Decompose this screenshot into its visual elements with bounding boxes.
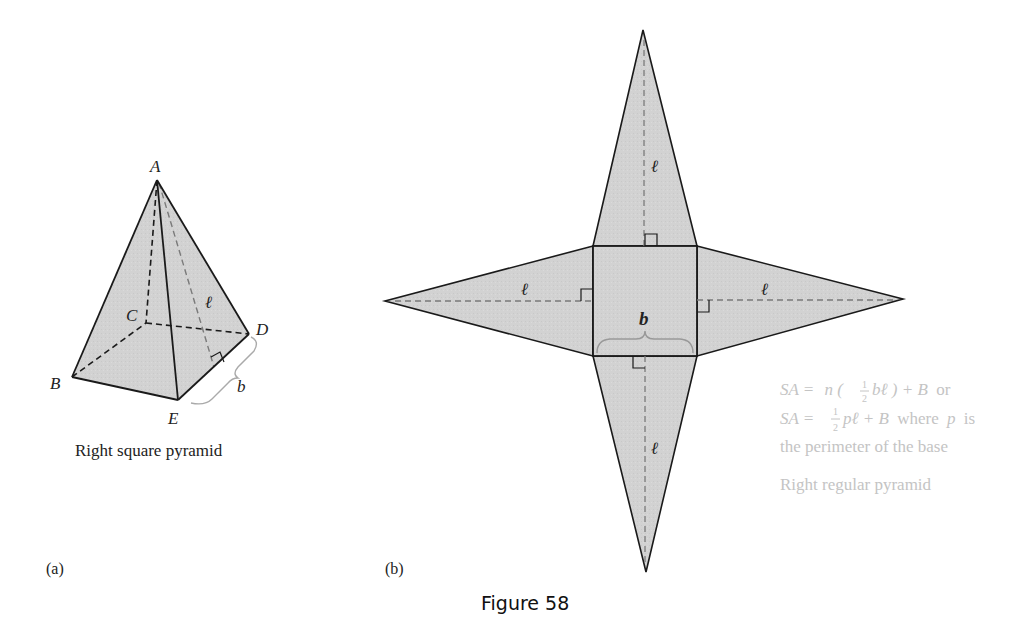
- pyramid-net-diagram: b ℓ ℓ ℓ ℓ (b): [385, 30, 903, 578]
- slant-label: ℓ: [205, 292, 212, 312]
- formula-line-2-frac-den: 2: [833, 422, 838, 433]
- net-triangle-right: [697, 246, 903, 356]
- net-caption: Right regular pyramid: [780, 475, 932, 494]
- net-slant-label-bottom: ℓ: [651, 438, 658, 458]
- formula-line-2: SA =: [780, 409, 814, 428]
- pyramid-diagram: A B C D E ℓ b Right square pyramid (a): [46, 157, 269, 578]
- surface-area-formula: SA = n ( 1 2 bℓ ) + B or SA = 1 2 pℓ + B…: [780, 379, 975, 494]
- formula-line-3: the perimeter of the base: [780, 437, 948, 456]
- base-label: b: [237, 377, 246, 396]
- net-slant-label-left: ℓ: [521, 279, 528, 299]
- formula-line-2-frac-num: 1: [833, 406, 838, 417]
- net-slant-label-top: ℓ: [651, 156, 658, 176]
- pyramid-caption: Right square pyramid: [75, 441, 223, 460]
- net-base-label: b: [639, 308, 649, 329]
- vertex-label-e: E: [167, 409, 179, 428]
- formula-line-1-frac-den: 2: [862, 393, 867, 404]
- net-triangle-top: [593, 30, 697, 246]
- formula-line-1-rest: bℓ ) + B or: [872, 380, 951, 399]
- figure-canvas: A B C D E ℓ b Right square pyramid (a) b…: [0, 0, 1034, 630]
- panel-b-tag: (b): [385, 560, 404, 578]
- vertex-label-b: B: [50, 374, 61, 393]
- formula-line-1-frac-num: 1: [862, 379, 867, 390]
- vertex-label-d: D: [255, 320, 269, 339]
- formula-line-2-rest: pℓ + B where p is: [842, 409, 975, 428]
- figure-title: Figure 58: [481, 592, 569, 614]
- net-slant-label-right: ℓ: [761, 279, 768, 299]
- vertex-label-c: C: [126, 306, 138, 325]
- panel-a-tag: (a): [46, 560, 64, 578]
- vertex-label-a: A: [149, 157, 161, 176]
- formula-line-1: SA = n (: [780, 380, 844, 399]
